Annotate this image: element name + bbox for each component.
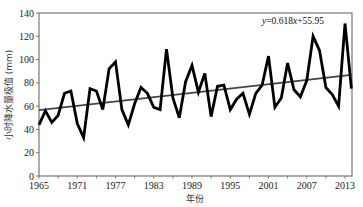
x-axis-ticks: 196519711977198319891995200120072013	[29, 176, 355, 191]
x-tick-label: 2007	[297, 180, 317, 191]
x-tick-label: 2013	[335, 180, 355, 191]
y-axis-ticks: 020406080100120140	[19, 8, 39, 182]
y-tick-label: 80	[24, 77, 34, 88]
y-tick-label: 60	[24, 101, 34, 112]
chart-container: 020406080100120140 196519711977198319891…	[0, 0, 363, 207]
trend-equation: y=0.618x+55.95	[261, 16, 324, 26]
x-tick-label: 1965	[29, 180, 49, 191]
x-tick-label: 1971	[67, 180, 87, 191]
y-tick-label: 40	[24, 124, 34, 135]
x-tick-label: 2001	[259, 180, 279, 191]
line-chart: 020406080100120140 196519711977198319891…	[0, 0, 363, 207]
y-tick-label: 100	[19, 54, 34, 65]
x-tick-label: 1995	[220, 180, 240, 191]
y-tick-label: 140	[19, 8, 34, 19]
x-tick-label: 1977	[106, 180, 126, 191]
y-tick-label: 20	[24, 147, 34, 158]
axes	[39, 13, 352, 176]
x-tick-label: 1983	[144, 180, 164, 191]
x-axis-title: 年份	[186, 193, 204, 204]
y-axis-title: 小时降水量极值 (mm)	[3, 50, 14, 140]
plot-frame	[39, 13, 352, 176]
y-tick-label: 120	[19, 31, 34, 42]
x-tick-label: 1989	[182, 180, 202, 191]
